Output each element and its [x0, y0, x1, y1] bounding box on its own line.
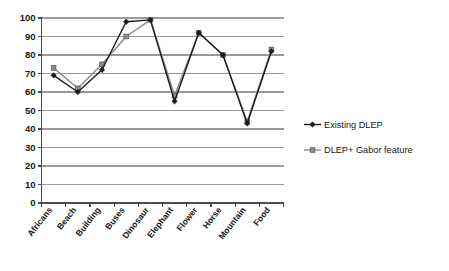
data-point-diamond-marker [124, 19, 129, 24]
legend-label: DLEP+ Gabor feature [324, 145, 413, 155]
x-tick-label: Horse [201, 205, 224, 231]
data-point-square-marker [51, 66, 56, 71]
y-tick-label: 80 [25, 49, 36, 60]
y-tick-label: 0 [30, 197, 35, 208]
y-tick-label: 70 [25, 68, 36, 79]
y-tick-label: 30 [25, 142, 36, 153]
y-tick-label: 60 [25, 86, 36, 97]
y-tick-label: 100 [20, 12, 36, 23]
x-tick-label: Buses [103, 205, 127, 232]
x-tick-label: Building [74, 205, 103, 238]
line-chart: 0102030405060708090100 AfricansBeachBuil… [0, 0, 449, 271]
y-axis [38, 18, 42, 203]
data-point-diamond-marker [172, 99, 177, 104]
y-tick-label: 10 [25, 179, 36, 190]
x-axis [42, 203, 284, 207]
y-tick-label: 20 [25, 160, 36, 171]
data-point-diamond-marker [310, 122, 315, 127]
y-tick-labels: 0102030405060708090100 [20, 12, 36, 208]
series-line [54, 20, 272, 124]
x-tick-label: Africans [25, 205, 54, 238]
series-1 [51, 17, 274, 126]
series-lines [51, 17, 274, 126]
x-tick-label: Food [251, 205, 272, 228]
chart-canvas: 0102030405060708090100 AfricansBeachBuil… [0, 0, 449, 271]
y-tick-label: 90 [25, 31, 36, 42]
series-line [54, 20, 272, 122]
y-tick-label: 40 [25, 123, 36, 134]
gridlines [42, 18, 284, 203]
x-tick-label: Flower [174, 205, 199, 233]
legend-item-2[interactable]: DLEP+ Gabor feature [304, 145, 413, 155]
legend-item-1[interactable]: Existing DLEP [304, 120, 383, 130]
data-point-square-marker [124, 34, 129, 39]
chart-legend: Existing DLEPDLEP+ Gabor feature [304, 120, 413, 156]
y-tick-label: 50 [25, 105, 36, 116]
x-tick-labels: AfricansBeachBuildingBusesDinosaurElepha… [25, 205, 272, 242]
series-2 [51, 18, 273, 124]
legend-label: Existing DLEP [324, 120, 383, 130]
data-point-square-marker [310, 148, 315, 153]
x-tick-label: Beach [55, 205, 79, 231]
